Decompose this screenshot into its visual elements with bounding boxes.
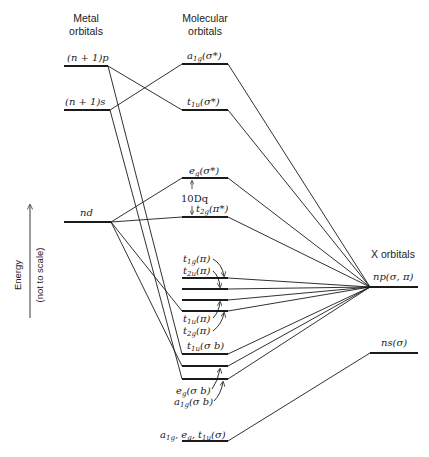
mo-header-line2: orbitals: [188, 25, 222, 37]
pointer-t1g-icon: [213, 259, 224, 276]
label-t2u-pi: t2u(π): [183, 265, 210, 278]
pointer-t1u-icon: [213, 302, 220, 318]
label-metal-nd: nd: [80, 207, 93, 218]
label-t2g-pi: t2g(π): [183, 325, 210, 338]
not-to-scale-note: (not to scale): [34, 248, 45, 303]
label-ligand-ns: ns(σ): [381, 337, 407, 348]
metal-header-line1: Metal: [73, 12, 99, 24]
label-t1u-antibonding: t1u(σ*): [187, 96, 220, 109]
label-a1g-antibonding: a1g(σ*): [187, 50, 222, 63]
mo-header-line1: Molecular: [182, 12, 228, 24]
label-metal-ns: (n + 1)s: [65, 96, 105, 107]
mo-diagram: Metal orbitals Molecular orbitals X orbi…: [0, 0, 429, 457]
label-10dq: 10Dq: [181, 193, 209, 204]
label-ligand-np: np(σ, π): [373, 271, 413, 282]
energy-axis: Energy (not to scale): [12, 205, 45, 318]
energy-label: Energy: [12, 260, 23, 290]
label-a1g-bonding: a1g(σ b): [174, 396, 213, 409]
pointer-a1g-bonding-icon: [214, 382, 223, 401]
ligand-correlation-lines: [228, 64, 370, 441]
label-eg-antibonding: eg(σ*): [189, 165, 219, 178]
label-t2g-pi-antibonding: t2g(π*): [196, 203, 228, 216]
label-t1u-bonding: t1u(σ b): [187, 340, 224, 353]
label-ligand-sigma-nonbonding: a1g, eg, t1u(σ): [160, 429, 226, 442]
metal-header-line2: orbitals: [69, 25, 103, 37]
label-metal-np: (n + 1)p: [67, 52, 109, 63]
metal-correlation-lines: [108, 64, 182, 379]
x-orbitals-header: X orbitals: [371, 248, 415, 260]
pointer-t2u-icon: [213, 271, 220, 287]
